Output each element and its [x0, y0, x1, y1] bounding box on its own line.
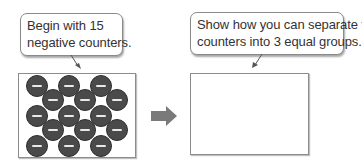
negative-counter — [26, 135, 48, 157]
minus-sign-icon — [32, 145, 42, 147]
right-callout-line-2: counters into 3 equal groups. — [197, 33, 338, 50]
minus-sign-icon — [96, 115, 106, 117]
minus-sign-icon — [64, 85, 74, 87]
minus-sign-icon — [64, 115, 74, 117]
minus-sign-icon — [48, 99, 58, 101]
left-callout-line-1: Begin with 15 — [27, 17, 117, 34]
right-callout: Show how you can separate the counters i… — [190, 12, 344, 55]
negative-counter — [106, 89, 128, 111]
minus-sign-icon — [80, 129, 90, 131]
counters-box — [18, 73, 136, 158]
right-arrow-icon — [151, 106, 177, 126]
right-callout-pointer-icon — [250, 53, 266, 71]
answer-box[interactable] — [190, 73, 309, 155]
minus-sign-icon — [64, 145, 74, 147]
minus-sign-icon — [112, 99, 122, 101]
negative-counter — [58, 135, 80, 157]
minus-sign-icon — [96, 85, 106, 87]
left-callout: Begin with 15 negative counters. — [20, 13, 123, 56]
minus-sign-icon — [80, 99, 90, 101]
negative-counter — [90, 135, 112, 157]
minus-sign-icon — [32, 85, 42, 87]
left-callout-pointer-icon — [68, 54, 84, 72]
minus-sign-icon — [112, 129, 122, 131]
minus-sign-icon — [96, 145, 106, 147]
minus-sign-icon — [48, 129, 58, 131]
left-callout-line-2: negative counters. — [27, 34, 117, 51]
right-callout-line-1: Show how you can separate the — [197, 16, 338, 33]
negative-counter — [106, 119, 128, 141]
minus-sign-icon — [32, 115, 42, 117]
